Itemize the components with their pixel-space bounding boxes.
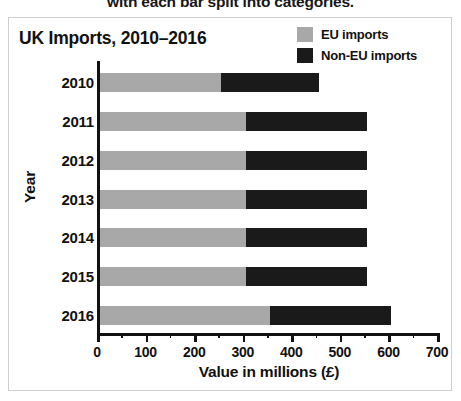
x-tick-major (146, 333, 149, 342)
x-tick-minor (413, 333, 415, 338)
x-tick-label: 200 (169, 344, 219, 360)
legend-swatch-eu-imports (297, 27, 313, 42)
x-tick-minor (364, 333, 366, 338)
x-tick-minor (316, 333, 318, 338)
x-tick-major (194, 333, 197, 342)
legend-label-eu-imports: EU imports (321, 27, 388, 42)
x-tick-label: 300 (218, 344, 268, 360)
bar-segment-eu (100, 112, 246, 131)
year-label: 2016 (34, 306, 94, 325)
x-tick-major (437, 333, 440, 342)
x-tick-major (243, 333, 246, 342)
x-tick-major (97, 333, 100, 342)
x-tick-minor (170, 333, 172, 338)
caption-strip: with each bar split into categories. (0, 0, 461, 13)
year-label: 2015 (34, 267, 94, 286)
year-label: 2010 (34, 73, 94, 92)
bar-segment-non-eu (221, 73, 318, 92)
x-tick-major (388, 333, 391, 342)
x-tick-label: 0 (72, 344, 122, 360)
year-label: 2011 (34, 112, 94, 131)
x-tick-major (340, 333, 343, 342)
bar-segment-non-eu (246, 112, 367, 131)
x-tick-minor (267, 333, 269, 338)
x-tick-label: 100 (121, 344, 171, 360)
year-label: 2012 (34, 151, 94, 170)
bar-segment-eu (100, 267, 246, 286)
chart-legend: EU imports Non-EU imports (297, 24, 447, 66)
bar-segment-eu (100, 228, 246, 247)
bar-segment-eu (100, 306, 270, 325)
bar-segment-non-eu (246, 267, 367, 286)
bar-segment-eu (100, 151, 246, 170)
x-tick-major (291, 333, 294, 342)
caption-text: with each bar split into categories. (107, 0, 354, 10)
x-tick-minor (121, 333, 123, 338)
x-tick-label: 500 (315, 344, 365, 360)
bar-segment-non-eu (270, 306, 391, 325)
x-tick-label: 600 (363, 344, 413, 360)
bar-segment-eu (100, 73, 221, 92)
x-tick-minor (218, 333, 220, 338)
x-tick-label: 400 (266, 344, 316, 360)
bar-segment-non-eu (246, 228, 367, 247)
year-label: 2013 (34, 190, 94, 209)
y-axis-title: Year (21, 157, 39, 217)
x-axis-title: Value in millions (£) (97, 363, 441, 381)
plot-area: 2010201120122013201420152016 01002003004… (97, 61, 437, 333)
chart-title: UK Imports, 2010–2016 (19, 28, 206, 49)
bar-segment-non-eu (246, 151, 367, 170)
year-label: 2014 (34, 228, 94, 247)
bar-segment-eu (100, 190, 246, 209)
legend-item-eu-imports: EU imports (297, 24, 447, 44)
bar-segment-non-eu (246, 190, 367, 209)
x-tick-label: 700 (412, 344, 461, 360)
chart-card: UK Imports, 2010–2016 EU imports Non-EU … (8, 17, 452, 391)
